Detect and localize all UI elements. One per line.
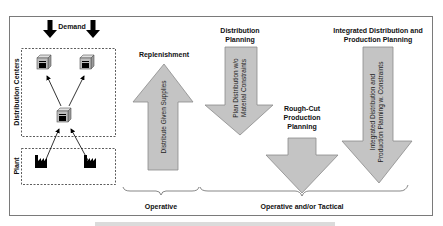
integrated-inner-line1: Integrated Distribution and (369, 73, 377, 150)
distribution-centers-label: Distribution Centers (13, 58, 20, 125)
integrated-title-line2: Production Planning (344, 36, 412, 44)
rough-cut-title-line1: Rough-Cut (284, 105, 321, 113)
integrated-inner-line2: Production Planning w. Constraints (377, 61, 385, 163)
supply-network-planning-diagram: Demand Distribution Centers Plant (0, 0, 443, 226)
distribution-planning-inner-line2: Material Constraints (240, 58, 247, 117)
plant-label: Plant (13, 157, 20, 175)
distribution-planning-title-line1: Distribution (220, 27, 259, 34)
replenishment-inner-text: Distribute Given Supplies (160, 80, 168, 154)
demand-label: Demand (58, 23, 86, 30)
warehouse-icon (80, 55, 94, 69)
operative-tactical-label: Operative and/or Tactical (260, 203, 343, 211)
distribution-planning-inner-line1: Plan Distribution w/o (232, 58, 239, 118)
warehouse-icon (57, 108, 71, 122)
rough-cut-title-line3: Planning (287, 123, 317, 131)
warehouse-icon (37, 55, 51, 69)
integrated-title-line1: Integrated Distribution and (333, 27, 422, 35)
rough-cut-title-line2: Production (284, 114, 321, 121)
replenishment-title: Replenishment (139, 51, 190, 59)
operative-label: Operative (145, 203, 177, 211)
caption-fragment (95, 222, 335, 226)
distribution-planning-title-line2: Planning (225, 36, 255, 44)
